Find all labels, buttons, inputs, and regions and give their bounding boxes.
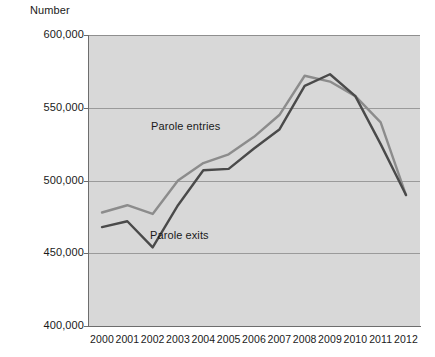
series-label-parole-entries: Parole entries bbox=[151, 120, 220, 132]
parole-entries-exits-line-chart: Number 400,000450,000500,000550,000600,0… bbox=[0, 0, 435, 357]
series-lines bbox=[0, 0, 435, 357]
series-line-parole-entries bbox=[102, 76, 406, 214]
series-label-parole-exits: Parole exits bbox=[150, 229, 209, 241]
